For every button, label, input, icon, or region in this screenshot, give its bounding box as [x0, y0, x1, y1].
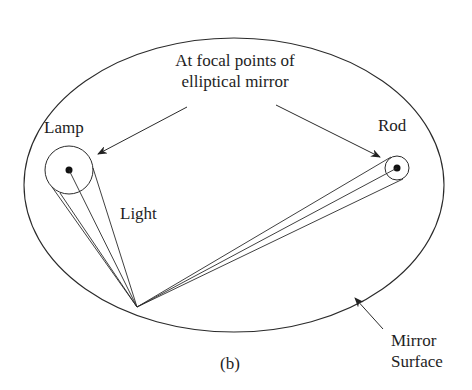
lamp-label: Lamp	[44, 118, 84, 138]
focal-points-label: At focal points of elliptical mirror	[130, 50, 340, 92]
focal-points-label-line2: elliptical mirror	[130, 71, 340, 92]
arrow-to-rod	[276, 105, 380, 157]
figure-caption: (b)	[220, 354, 240, 374]
mirror-surface-label: Mirror Surface	[391, 330, 443, 372]
light-rays-reflected	[137, 157, 403, 307]
arrow-to-mirror	[355, 298, 383, 329]
mirror-label-line1: Mirror	[391, 330, 443, 351]
light-label: Light	[120, 204, 157, 224]
focal-points-label-line1: At focal points of	[130, 50, 340, 71]
mirror-label-line2: Surface	[391, 351, 443, 372]
light-rays-incident	[52, 168, 137, 307]
arrow-to-lamp	[98, 107, 187, 154]
rod-label: Rod	[378, 116, 406, 136]
